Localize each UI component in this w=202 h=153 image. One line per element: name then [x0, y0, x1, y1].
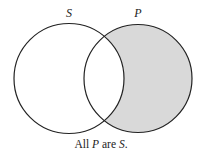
caption-copula: are: [102, 138, 116, 150]
venn-diagram: S P: [0, 0, 202, 153]
caption-prefix: All: [74, 138, 89, 150]
label-s: S: [66, 6, 72, 20]
caption-subject: P: [92, 138, 99, 150]
label-p: P: [133, 6, 142, 20]
caption-suffix: .: [125, 138, 128, 150]
caption: All P are S.: [0, 137, 202, 151]
